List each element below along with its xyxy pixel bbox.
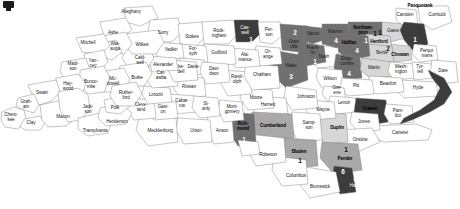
map-geometry: .cty{stroke:#7d7d7d;stroke-width:0.45;st… — [0, 0, 460, 209]
county-shape-vance[interactable] — [304, 26, 324, 44]
county-shape-perquimans[interactable] — [412, 44, 438, 62]
county-shape-rockingham[interactable] — [202, 20, 238, 44]
county-shape-sampson[interactable] — [290, 112, 322, 142]
county-shape-wilson[interactable] — [316, 68, 344, 88]
county-shape-stanly[interactable] — [192, 96, 220, 118]
county-shape-stokes[interactable] — [178, 22, 206, 46]
county-shape-lincoln[interactable] — [142, 86, 172, 104]
county-shape-scotland[interactable] — [238, 140, 260, 156]
county-shape-johnston[interactable] — [284, 86, 318, 110]
county-shape-person[interactable] — [258, 22, 282, 44]
county-shape-union[interactable] — [176, 118, 212, 144]
county-shape-caswell[interactable] — [234, 20, 262, 42]
nc-county-choropleth-map: .cty{stroke:#7d7d7d;stroke-width:0.45;st… — [0, 0, 460, 209]
